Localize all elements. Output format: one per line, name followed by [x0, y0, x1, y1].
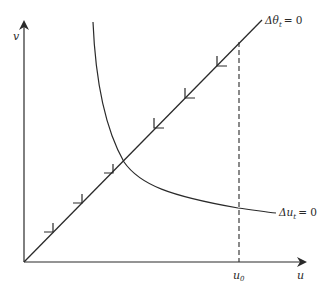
up-arrow-icon: [73, 194, 82, 203]
down-arrow-icon: [154, 118, 164, 128]
phase-diagram: v u u0 Δθt= 0 Δut= 0: [0, 0, 324, 291]
y-axis-label: v: [13, 30, 20, 43]
up-arrow-icon: [104, 164, 113, 173]
u0-label: u0: [233, 269, 245, 283]
u-locus-curve: [93, 22, 276, 213]
theta-locus-line: [24, 20, 262, 262]
up-arrow-icon: [44, 223, 53, 232]
theta-locus-label: Δθt= 0: [264, 14, 303, 29]
x-axis-label: u: [297, 269, 304, 282]
u-locus-label: Δut= 0: [278, 206, 317, 221]
